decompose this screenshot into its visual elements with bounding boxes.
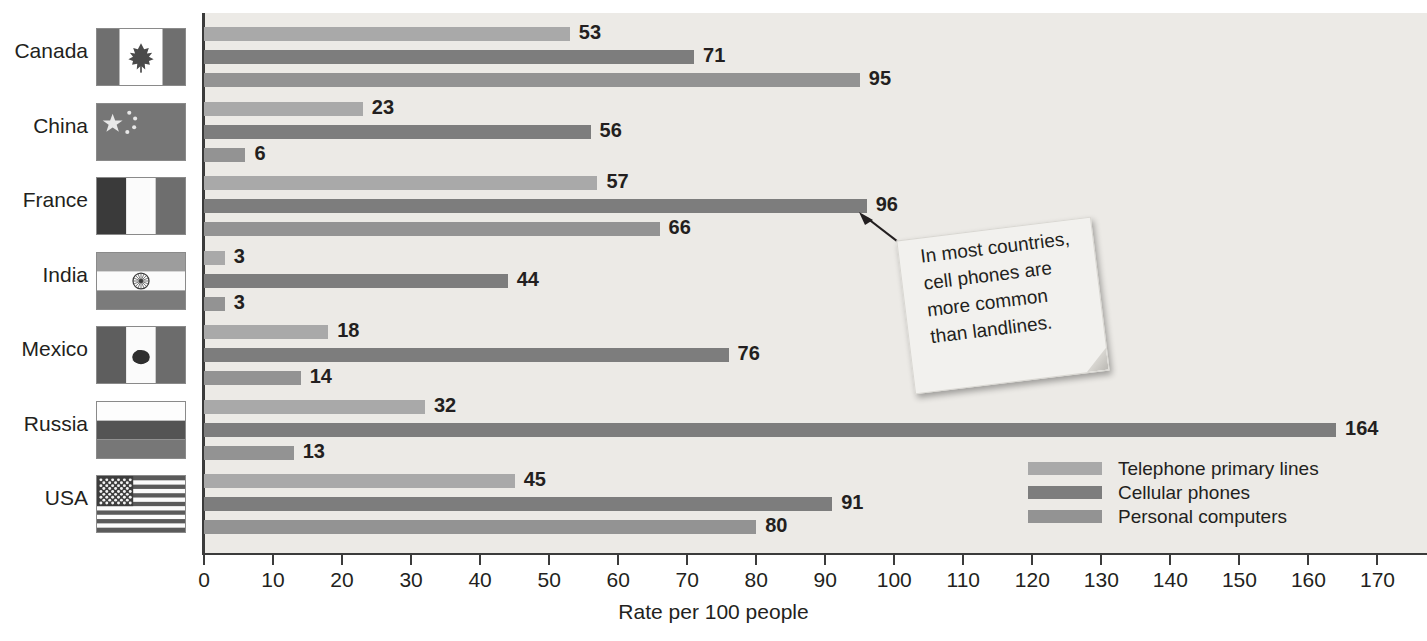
flag-france-icon (96, 177, 186, 235)
flag-usa-icon (96, 475, 186, 533)
bar-value-india-personal-computers: 3 (234, 295, 245, 309)
bar-mexico-telephone-primary-lines[interactable] (204, 325, 328, 339)
bar-value-canada-personal-computers: 95 (869, 71, 891, 85)
bar-usa-personal-computers[interactable] (204, 520, 756, 534)
bar-france-telephone-primary-lines[interactable] (204, 176, 597, 190)
callout-note-curl-icon (1084, 348, 1109, 373)
x-tick-130 (1100, 554, 1102, 565)
x-tick-170 (1376, 554, 1378, 565)
x-tick-label-160: 160 (1291, 568, 1326, 592)
x-tick-label-60: 60 (606, 568, 629, 592)
bar-india-telephone-primary-lines[interactable] (204, 251, 225, 265)
country-label-china: China (0, 115, 88, 136)
x-tick-label-10: 10 (261, 568, 284, 592)
flag-canada-icon (96, 28, 186, 86)
bar-france-personal-computers[interactable] (204, 222, 660, 236)
country-label-france: France (0, 189, 88, 210)
x-tick-label-30: 30 (399, 568, 422, 592)
x-tick-60 (617, 554, 619, 565)
bar-value-france-telephone-primary-lines: 57 (606, 174, 628, 188)
x-axis-title: Rate per 100 people (0, 600, 1427, 624)
x-tick-label-170: 170 (1360, 568, 1395, 592)
legend-swatch-telephone-primary-lines (1028, 462, 1102, 475)
bar-value-usa-telephone-primary-lines: 45 (524, 472, 546, 486)
bar-india-personal-computers[interactable] (204, 297, 225, 311)
bar-value-france-personal-computers: 66 (669, 220, 691, 234)
bar-value-canada-cellular-phones: 71 (703, 48, 725, 62)
x-tick-label-70: 70 (676, 568, 699, 592)
country-label-canada: Canada (0, 40, 88, 61)
country-label-usa: USA (0, 487, 88, 508)
legend-label-telephone-primary-lines: Telephone primary lines (1118, 458, 1319, 479)
bar-mexico-personal-computers[interactable] (204, 371, 301, 385)
bar-value-usa-personal-computers: 80 (765, 518, 787, 532)
bar-france-cellular-phones[interactable] (204, 199, 867, 213)
bar-value-canada-telephone-primary-lines: 53 (579, 25, 601, 39)
flag-india-icon (96, 252, 186, 310)
legend-label-personal-computers: Personal computers (1118, 506, 1287, 527)
bar-value-france-cellular-phones: 96 (876, 197, 898, 211)
bar-value-china-cellular-phones: 56 (600, 123, 622, 137)
chart-figure: Canada 537195China 23566France (0, 0, 1427, 641)
x-tick-label-90: 90 (814, 568, 837, 592)
legend-swatch-personal-computers (1028, 510, 1102, 523)
bar-value-china-personal-computers: 6 (254, 146, 265, 160)
bar-china-personal-computers[interactable] (204, 148, 245, 162)
bar-value-mexico-personal-computers: 14 (310, 369, 332, 383)
x-tick-50 (548, 554, 550, 565)
x-tick-20 (341, 554, 343, 565)
bar-value-russia-cellular-phones: 164 (1345, 421, 1378, 435)
bar-china-telephone-primary-lines[interactable] (204, 102, 363, 116)
bar-russia-cellular-phones[interactable] (204, 423, 1336, 437)
country-label-mexico: Mexico (0, 338, 88, 359)
bar-value-mexico-telephone-primary-lines: 18 (337, 323, 359, 337)
bar-canada-cellular-phones[interactable] (204, 50, 694, 64)
country-label-russia: Russia (0, 413, 88, 434)
x-axis-line (202, 553, 1427, 555)
x-tick-160 (1307, 554, 1309, 565)
bar-india-cellular-phones[interactable] (204, 274, 508, 288)
legend-swatch-cellular-phones (1028, 486, 1102, 499)
x-tick-140 (1169, 554, 1171, 565)
bar-russia-personal-computers[interactable] (204, 446, 294, 460)
bar-value-india-telephone-primary-lines: 3 (234, 249, 245, 263)
bar-china-cellular-phones[interactable] (204, 125, 591, 139)
x-tick-label-100: 100 (877, 568, 912, 592)
legend-label-cellular-phones: Cellular phones (1118, 482, 1250, 503)
callout-note-text: In most countries, cell phones are more … (919, 223, 1103, 351)
x-tick-label-120: 120 (1015, 568, 1050, 592)
x-tick-label-80: 80 (745, 568, 768, 592)
x-tick-80 (755, 554, 757, 565)
bar-value-mexico-cellular-phones: 76 (738, 346, 760, 360)
callout-note: In most countries, cell phones are more … (905, 228, 1101, 383)
x-tick-30 (410, 554, 412, 565)
x-tick-0 (203, 554, 205, 565)
x-tick-label-50: 50 (537, 568, 560, 592)
x-tick-label-130: 130 (1084, 568, 1119, 592)
flag-mexico-icon (96, 326, 186, 384)
bar-usa-telephone-primary-lines[interactable] (204, 474, 515, 488)
bar-value-usa-cellular-phones: 91 (841, 495, 863, 509)
x-tick-110 (962, 554, 964, 565)
bar-value-russia-personal-computers: 13 (303, 444, 325, 458)
bar-usa-cellular-phones[interactable] (204, 497, 832, 511)
x-tick-label-0: 0 (198, 568, 210, 592)
x-tick-120 (1031, 554, 1033, 565)
bar-value-russia-telephone-primary-lines: 32 (434, 398, 456, 412)
x-tick-label-140: 140 (1153, 568, 1188, 592)
bar-russia-telephone-primary-lines[interactable] (204, 400, 425, 414)
x-tick-10 (272, 554, 274, 565)
x-tick-label-150: 150 (1222, 568, 1257, 592)
bar-canada-telephone-primary-lines[interactable] (204, 27, 570, 41)
bar-canada-personal-computers[interactable] (204, 73, 860, 87)
bar-mexico-cellular-phones[interactable] (204, 348, 729, 362)
flag-china-icon (96, 103, 186, 161)
bar-value-china-telephone-primary-lines: 23 (372, 100, 394, 114)
x-tick-40 (479, 554, 481, 565)
x-tick-150 (1238, 554, 1240, 565)
bar-value-india-cellular-phones: 44 (517, 272, 539, 286)
country-label-india: India (0, 264, 88, 285)
x-tick-label-110: 110 (947, 568, 980, 592)
x-tick-label-20: 20 (330, 568, 353, 592)
x-tick-70 (686, 554, 688, 565)
